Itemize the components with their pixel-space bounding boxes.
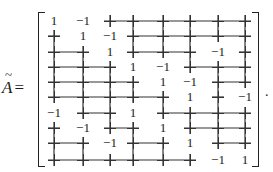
matrix-entry: −1 xyxy=(232,89,258,104)
matrix-entry: 1 xyxy=(177,135,203,150)
matrix-entry: 1 xyxy=(70,28,96,43)
matrix-entry: 1 xyxy=(150,74,176,89)
matrix-entry: 1 xyxy=(97,44,123,59)
matrix-entry: −1 xyxy=(205,152,231,167)
matrix-entry: 1 xyxy=(120,105,146,120)
matrix-entry: 1 xyxy=(120,59,146,74)
matrix-entry: −1 xyxy=(205,44,231,59)
matrix-entry: 1 xyxy=(150,120,176,135)
matrix-entry: 1 xyxy=(232,152,258,167)
matrix-entry: 1 xyxy=(177,89,203,104)
matrix-entry: −1 xyxy=(70,120,96,135)
matrix-entry: −1 xyxy=(41,105,67,120)
matrix-entry: −1 xyxy=(97,135,123,150)
matrix-entry: −1 xyxy=(70,13,96,28)
matrix-entry: −1 xyxy=(97,28,123,43)
matrix-entry: 1 xyxy=(41,13,67,28)
matrix-entry: −1 xyxy=(177,74,203,89)
matrix-entry: −1 xyxy=(150,59,176,74)
